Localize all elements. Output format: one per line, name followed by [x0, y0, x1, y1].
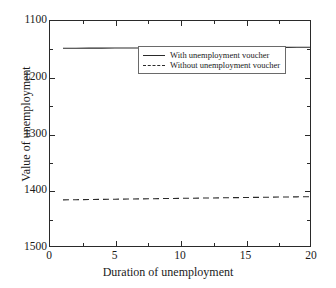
y-tick-label: 1300 — [24, 128, 47, 140]
y-tick-label: 1500 — [24, 241, 47, 253]
legend-line-solid-icon — [143, 51, 165, 59]
x-tick-label: 20 — [305, 250, 317, 262]
legend-item-with-voucher: With unemployment voucher — [143, 50, 280, 60]
y-axis-title: Value of unemployment — [20, 44, 32, 204]
y-tick-label: 1200 — [24, 71, 47, 83]
chart-legend: With unemployment voucher Without unempl… — [138, 46, 286, 74]
legend-label: With unemployment voucher — [170, 51, 269, 60]
x-tick-label: 10 — [174, 250, 186, 262]
y-tick-label: 1100 — [24, 14, 47, 26]
x-tick-label: 0 — [46, 250, 52, 262]
x-axis-title: Duration of unemployment — [0, 266, 336, 278]
chart-figure: Value of unemployment Duration of unempl… — [0, 0, 336, 288]
series-line-without-voucher — [63, 197, 310, 200]
legend-label: Without unemployment voucher — [170, 61, 280, 70]
y-tick-label: 1400 — [24, 185, 47, 197]
x-tick-label: 5 — [112, 250, 118, 262]
legend-line-dashed-icon — [143, 61, 165, 69]
x-tick-label: 15 — [240, 250, 252, 262]
legend-item-without-voucher: Without unemployment voucher — [143, 60, 280, 70]
